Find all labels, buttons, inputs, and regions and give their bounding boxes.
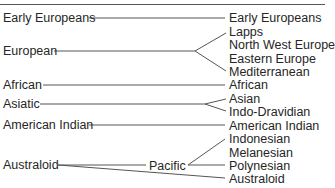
right-label: Asian xyxy=(229,92,260,106)
right-label: Early Europeans xyxy=(229,11,321,25)
right-label: American Indian xyxy=(229,119,319,133)
left-label-american-indian: American Indian xyxy=(3,118,93,132)
right-label: Melanesian xyxy=(229,146,293,160)
right-label: African xyxy=(229,78,268,92)
left-label-european: European xyxy=(3,44,57,58)
right-label: Lapps xyxy=(229,25,263,39)
right-label: Indonesian xyxy=(229,132,290,146)
right-label: Polynesian xyxy=(229,159,290,173)
left-label-asiatic: Asiatic xyxy=(3,97,40,111)
right-label: Australoid xyxy=(229,172,285,186)
right-label: North West Europe xyxy=(229,38,335,52)
right-label: Eastern Europe xyxy=(229,52,316,66)
left-label-australoid: Australoid xyxy=(3,158,59,172)
left-label-early-europeans: Early Europeans xyxy=(3,11,95,25)
middle-label-pacific: Pacific xyxy=(149,159,186,173)
right-label: Mediterranean xyxy=(229,65,310,79)
left-label-african: African xyxy=(3,78,42,92)
right-label: Indo-Dravidian xyxy=(229,105,310,119)
